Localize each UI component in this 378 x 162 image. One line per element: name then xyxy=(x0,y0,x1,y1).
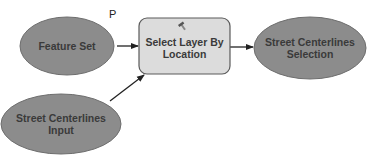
parameter-marker: P xyxy=(109,8,116,20)
edge-input-to-tool xyxy=(110,75,144,101)
node-street-centerlines-input[interactable] xyxy=(1,94,121,154)
node-street-centerlines-selection[interactable] xyxy=(254,17,366,79)
node-feature-set[interactable] xyxy=(20,17,114,75)
node-select-layer-by-location[interactable] xyxy=(139,18,230,74)
model-diagram xyxy=(0,0,378,162)
